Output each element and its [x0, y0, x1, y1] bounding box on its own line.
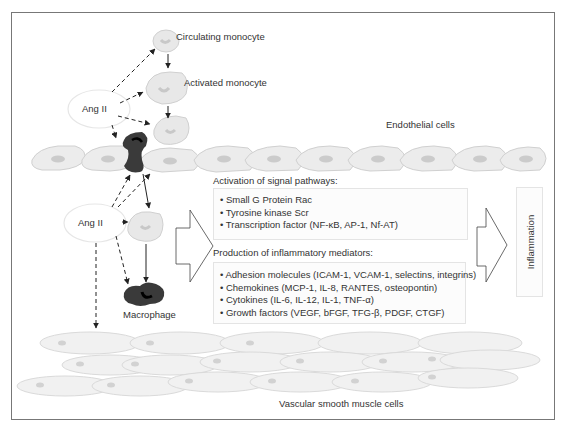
label-ang-ii-top: Ang II [82, 103, 107, 114]
inflammatory-mediators-box: Adhesion molecules (ICAM-1, VCAM-1, sele… [213, 262, 466, 324]
mediator-item: Growth factors (VEGF, bFGF, TFG-β, PDGF,… [220, 307, 459, 320]
inflammation-box: Inflammation [516, 187, 543, 297]
label-vascular-smooth-muscle-cells: Vascular smooth muscle cells [279, 398, 403, 409]
signal-pathways-box: Small G Protein Rac Tyrosine kinase Scr … [213, 188, 468, 240]
inflammatory-mediators-title: Production of inflammatory mediators: [213, 247, 373, 258]
mediator-item: Chemokines (MCP-1, IL-8, RANTES, osteopo… [220, 282, 459, 295]
label-macrophage: Macrophage [123, 309, 176, 320]
adherent-monocyte-cell [154, 116, 189, 144]
label-activated-monocyte: Activated monocyte [184, 77, 267, 88]
label-endothelial-cells: Endothelial cells [386, 119, 455, 130]
label-circulating-monocyte: Circulating monocyte [176, 31, 265, 42]
label-ang-ii-bottom: Ang II [78, 217, 103, 228]
big-arrow-right [477, 208, 507, 282]
signal-pathway-item: Transcription factor (NF-κB, AP-1, Nf-AT… [220, 219, 461, 232]
label-inflammation: Inflammation [524, 215, 535, 269]
big-arrow-left [176, 210, 213, 282]
macrophage-cell [124, 282, 165, 306]
signal-pathway-item: Small G Protein Rac [220, 194, 461, 207]
signal-pathways-title: Activation of signal pathways: [213, 175, 338, 186]
activated-monocyte-cell [146, 72, 187, 104]
mediator-item: Adhesion molecules (ICAM-1, VCAM-1, sele… [220, 269, 459, 282]
smooth-muscle-cells [17, 332, 540, 396]
signal-pathway-item: Tyrosine kinase Scr [220, 207, 461, 220]
transmigrated-monocyte-cell [128, 212, 163, 242]
mediator-item: Cytokines (IL-6, IL-12, IL-1, TNF-α) [220, 294, 459, 307]
